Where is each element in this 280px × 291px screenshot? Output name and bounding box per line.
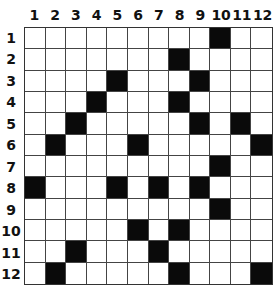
black-cell[interactable] [25,177,46,198]
white-cell[interactable] [46,241,67,262]
white-cell[interactable] [25,263,46,284]
white-cell[interactable] [210,71,231,92]
white-cell[interactable] [251,71,272,92]
white-cell[interactable] [231,28,252,49]
white-cell[interactable] [251,177,272,198]
white-cell[interactable] [231,241,252,262]
white-cell[interactable] [66,199,87,220]
white-cell[interactable] [46,92,67,113]
white-cell[interactable] [46,49,67,70]
white-cell[interactable] [128,28,149,49]
white-cell[interactable] [231,71,252,92]
white-cell[interactable] [231,92,252,113]
black-cell[interactable] [190,71,211,92]
black-cell[interactable] [190,113,211,134]
white-cell[interactable] [66,28,87,49]
white-cell[interactable] [231,135,252,156]
white-cell[interactable] [149,263,170,284]
white-cell[interactable] [87,177,108,198]
white-cell[interactable] [87,135,108,156]
white-cell[interactable] [128,156,149,177]
white-cell[interactable] [149,220,170,241]
white-cell[interactable] [210,49,231,70]
black-cell[interactable] [169,263,190,284]
white-cell[interactable] [128,49,149,70]
white-cell[interactable] [231,220,252,241]
white-cell[interactable] [107,263,128,284]
black-cell[interactable] [107,177,128,198]
white-cell[interactable] [107,156,128,177]
black-cell[interactable] [210,199,231,220]
white-cell[interactable] [46,28,67,49]
black-cell[interactable] [149,177,170,198]
white-cell[interactable] [190,28,211,49]
white-cell[interactable] [128,92,149,113]
white-cell[interactable] [190,220,211,241]
black-cell[interactable] [231,113,252,134]
black-cell[interactable] [128,135,149,156]
white-cell[interactable] [107,113,128,134]
white-cell[interactable] [169,156,190,177]
white-cell[interactable] [46,177,67,198]
black-cell[interactable] [251,263,272,284]
white-cell[interactable] [210,220,231,241]
white-cell[interactable] [231,49,252,70]
white-cell[interactable] [66,135,87,156]
white-cell[interactable] [128,71,149,92]
white-cell[interactable] [149,199,170,220]
white-cell[interactable] [231,263,252,284]
white-cell[interactable] [190,241,211,262]
black-cell[interactable] [66,241,87,262]
white-cell[interactable] [66,220,87,241]
white-cell[interactable] [149,28,170,49]
black-cell[interactable] [107,71,128,92]
black-cell[interactable] [149,241,170,262]
white-cell[interactable] [66,92,87,113]
white-cell[interactable] [231,199,252,220]
white-cell[interactable] [107,49,128,70]
white-cell[interactable] [25,156,46,177]
white-cell[interactable] [128,263,149,284]
white-cell[interactable] [169,113,190,134]
white-cell[interactable] [87,241,108,262]
white-cell[interactable] [128,113,149,134]
white-cell[interactable] [107,220,128,241]
white-cell[interactable] [66,49,87,70]
white-cell[interactable] [251,113,272,134]
white-cell[interactable] [128,241,149,262]
white-cell[interactable] [251,28,272,49]
white-cell[interactable] [251,49,272,70]
white-cell[interactable] [190,263,211,284]
white-cell[interactable] [251,241,272,262]
white-cell[interactable] [231,156,252,177]
white-cell[interactable] [190,92,211,113]
white-cell[interactable] [25,135,46,156]
white-cell[interactable] [190,199,211,220]
white-cell[interactable] [190,49,211,70]
white-cell[interactable] [169,241,190,262]
black-cell[interactable] [66,113,87,134]
white-cell[interactable] [25,199,46,220]
white-cell[interactable] [66,71,87,92]
white-cell[interactable] [25,220,46,241]
white-cell[interactable] [190,135,211,156]
white-cell[interactable] [25,71,46,92]
white-cell[interactable] [149,49,170,70]
white-cell[interactable] [46,220,67,241]
white-cell[interactable] [46,199,67,220]
white-cell[interactable] [25,241,46,262]
white-cell[interactable] [210,113,231,134]
black-cell[interactable] [190,177,211,198]
white-cell[interactable] [251,92,272,113]
white-cell[interactable] [66,263,87,284]
white-cell[interactable] [46,156,67,177]
white-cell[interactable] [210,92,231,113]
white-cell[interactable] [25,28,46,49]
white-cell[interactable] [107,28,128,49]
white-cell[interactable] [107,135,128,156]
white-cell[interactable] [87,71,108,92]
white-cell[interactable] [128,177,149,198]
white-cell[interactable] [149,113,170,134]
white-cell[interactable] [46,113,67,134]
black-cell[interactable] [87,92,108,113]
